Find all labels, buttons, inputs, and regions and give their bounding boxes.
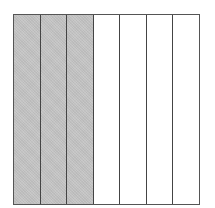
fraction-square xyxy=(13,14,200,205)
shaded-strip xyxy=(67,15,94,204)
unshaded-strip xyxy=(147,15,174,204)
shaded-strip xyxy=(41,15,68,204)
unshaded-strip xyxy=(94,15,121,204)
unshaded-strip xyxy=(173,15,199,204)
shaded-strip xyxy=(14,15,41,204)
unshaded-strip xyxy=(120,15,147,204)
